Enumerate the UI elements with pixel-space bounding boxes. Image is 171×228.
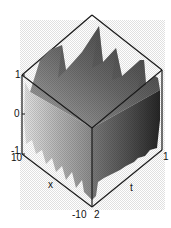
t-axis-label: t bbox=[130, 183, 133, 193]
x-axis-label: x bbox=[48, 180, 53, 190]
z-tick-label-zero: 0 bbox=[14, 109, 20, 119]
x-tick-label-min: -10 bbox=[72, 210, 86, 220]
x-tick-label-max: 10 bbox=[11, 153, 22, 163]
t-tick-label-min: 2 bbox=[94, 210, 100, 220]
surface-plot bbox=[0, 0, 171, 228]
z-tick-label-max: 1 bbox=[15, 70, 21, 80]
t-tick-label-max: 1 bbox=[163, 152, 169, 162]
